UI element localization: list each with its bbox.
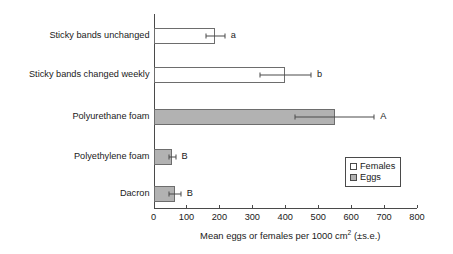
- error-cap-1-low: [259, 73, 260, 78]
- legend-swatch-females: [350, 163, 357, 170]
- x-axis-tick: [252, 205, 253, 208]
- legend-entry-0: Females: [350, 161, 395, 172]
- x-axis-tick-label: 300: [245, 213, 260, 222]
- category-label-0: Sticky bands unchanged: [49, 31, 149, 40]
- x-axis-tick: [154, 205, 155, 208]
- error-cap-4-high: [180, 192, 181, 197]
- significance-letter-0: a: [231, 31, 236, 40]
- x-axis-tick-label: 0: [151, 213, 156, 222]
- x-axis-tick: [186, 205, 187, 208]
- x-axis-tick: [318, 205, 319, 208]
- error-bar-0: [206, 36, 224, 37]
- error-bar-2: [295, 117, 374, 118]
- category-label-3: Polyethylene foam: [74, 152, 150, 161]
- x-axis-tick-label: 600: [343, 213, 358, 222]
- significance-letter-1: b: [317, 70, 322, 79]
- category-label-4: Dacron: [120, 189, 150, 198]
- category-label-2: Polyurethane foam: [72, 112, 149, 121]
- x-axis-tick: [285, 205, 286, 208]
- legend-entry-1: Eggs: [350, 172, 395, 183]
- chart-figure: 0100200300400500600700800Mean eggs or fe…: [0, 0, 453, 254]
- x-axis-tick: [351, 205, 352, 208]
- error-cap-0-high: [224, 34, 225, 39]
- x-axis-tick-label: 700: [376, 213, 391, 222]
- error-cap-3-high: [175, 155, 176, 160]
- category-label-1: Sticky bands changed weekly: [29, 70, 150, 79]
- x-axis-tick-label: 500: [311, 213, 326, 222]
- x-axis-tick-label: 200: [212, 213, 227, 222]
- chart-legend: FemalesEggs: [345, 157, 401, 187]
- error-bar-1: [260, 75, 311, 76]
- x-axis-tick: [417, 205, 418, 208]
- x-axis-tick: [219, 205, 220, 208]
- x-axis-tick-label: 800: [409, 213, 424, 222]
- x-axis-tick-label: 100: [179, 213, 194, 222]
- error-cap-2-high: [374, 115, 375, 120]
- error-cap-3-low: [168, 155, 169, 160]
- x-axis-line: [154, 208, 418, 209]
- x-axis-title: Mean eggs or females per 1000 cm2 (±s.e.…: [200, 230, 380, 241]
- legend-swatch-eggs: [350, 174, 357, 181]
- error-cap-0-low: [206, 34, 207, 39]
- error-cap-4-low: [168, 192, 169, 197]
- significance-letter-4: B: [187, 189, 193, 198]
- x-axis-tick: [384, 205, 385, 208]
- legend-label-females: Females: [360, 162, 395, 171]
- legend-label-eggs: Eggs: [360, 173, 381, 182]
- x-axis-tick-label: 400: [278, 213, 293, 222]
- significance-letter-3: B: [182, 152, 188, 161]
- error-cap-1-high: [310, 73, 311, 78]
- significance-letter-2: A: [380, 112, 386, 121]
- error-cap-2-low: [295, 115, 296, 120]
- error-bar-4: [169, 194, 181, 195]
